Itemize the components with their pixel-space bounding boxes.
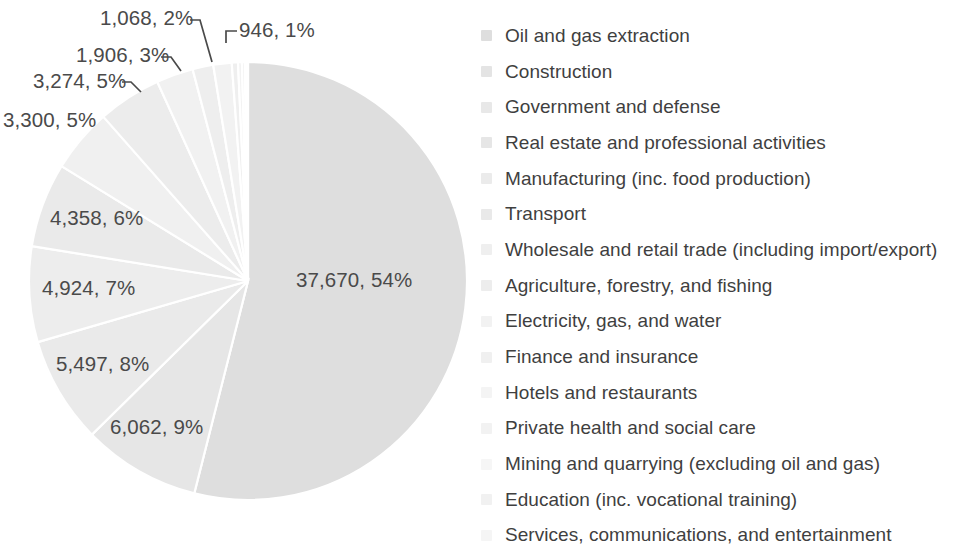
data-label-5497: 5,497, 8% [56, 354, 149, 375]
legend-swatch-icon [481, 352, 492, 363]
legend-item[interactable]: Electricity, gas, and water [478, 304, 972, 340]
legend-item-label: Agriculture, forestry, and fishing [505, 275, 772, 297]
legend-item[interactable]: Construction [478, 54, 972, 90]
legend-swatch-icon [481, 423, 492, 434]
data-label-3300: 3,300, 5% [3, 110, 96, 131]
legend-item[interactable]: Mining and quarrying (excluding oil and … [478, 446, 972, 482]
legend-swatch-icon [481, 173, 492, 184]
legend-item-label: Wholesale and retail trade (including im… [505, 239, 937, 261]
legend-item[interactable]: Private health and social care [478, 411, 972, 447]
legend-item[interactable]: Government and defense [478, 89, 972, 125]
legend-swatch-icon [481, 530, 492, 541]
data-label-946: 946, 1% [239, 20, 315, 41]
pie-slice[interactable] [247, 62, 248, 281]
legend-swatch-icon [481, 459, 492, 470]
legend-swatch-icon [481, 316, 492, 327]
legend-swatch-icon [481, 244, 492, 255]
pie-chart-figure: 1,068, 2% 946, 1% 1,906, 3% 3,274, 5% 3,… [0, 0, 972, 544]
legend-item-label: Mining and quarrying (excluding oil and … [505, 453, 880, 475]
legend-swatch-icon [481, 387, 492, 398]
legend-item[interactable]: Services, communications, and entertainm… [478, 518, 972, 544]
legend-item-label: Manufacturing (inc. food production) [505, 168, 811, 190]
legend-item-label: Electricity, gas, and water [505, 310, 721, 332]
legend-item-label: Oil and gas extraction [505, 25, 690, 47]
leader-line-946 [226, 31, 237, 43]
data-label-37670: 37,670, 54% [296, 270, 412, 291]
legend-item[interactable]: Manufacturing (inc. food production) [478, 161, 972, 197]
legend-item-label: Real estate and professional activities [505, 132, 826, 154]
legend-item[interactable]: Education (inc. vocational training) [478, 482, 972, 518]
legend-item[interactable]: Transport [478, 196, 972, 232]
chart-legend: Oil and gas extractionConstructionGovern… [478, 18, 972, 544]
legend-swatch-icon [481, 66, 492, 77]
legend-item-label: Hotels and restaurants [505, 382, 697, 404]
data-label-4924: 4,924, 7% [42, 278, 135, 299]
data-label-1068: 1,068, 2% [100, 8, 193, 29]
legend-item[interactable]: Real estate and professional activities [478, 125, 972, 161]
legend-item-label: Government and defense [505, 96, 721, 118]
legend-item-label: Services, communications, and entertainm… [505, 524, 892, 544]
legend-item-label: Finance and insurance [505, 346, 698, 368]
data-label-3274: 3,274, 5% [33, 71, 126, 92]
data-label-6062: 6,062, 9% [110, 417, 203, 438]
legend-swatch-icon [481, 209, 492, 220]
legend-swatch-icon [481, 494, 492, 505]
legend-item[interactable]: Hotels and restaurants [478, 375, 972, 411]
legend-item[interactable]: Oil and gas extraction [478, 18, 972, 54]
pie-chart-plot-area: 1,068, 2% 946, 1% 1,906, 3% 3,274, 5% 3,… [0, 0, 472, 544]
legend-item-label: Transport [505, 203, 586, 225]
legend-swatch-icon [481, 102, 492, 113]
legend-item[interactable]: Wholesale and retail trade (including im… [478, 232, 972, 268]
leader-line-1068 [190, 20, 212, 62]
legend-item[interactable]: Agriculture, forestry, and fishing [478, 268, 972, 304]
legend-swatch-icon [481, 30, 492, 41]
legend-swatch-icon [481, 137, 492, 148]
legend-item-label: Education (inc. vocational training) [505, 489, 797, 511]
legend-item[interactable]: Finance and insurance [478, 339, 972, 375]
data-label-1906: 1,906, 3% [76, 45, 169, 66]
legend-item-label: Construction [505, 61, 612, 83]
legend-swatch-icon [481, 280, 492, 291]
data-label-4358: 4,358, 6% [50, 208, 143, 229]
legend-item-label: Private health and social care [505, 417, 756, 439]
